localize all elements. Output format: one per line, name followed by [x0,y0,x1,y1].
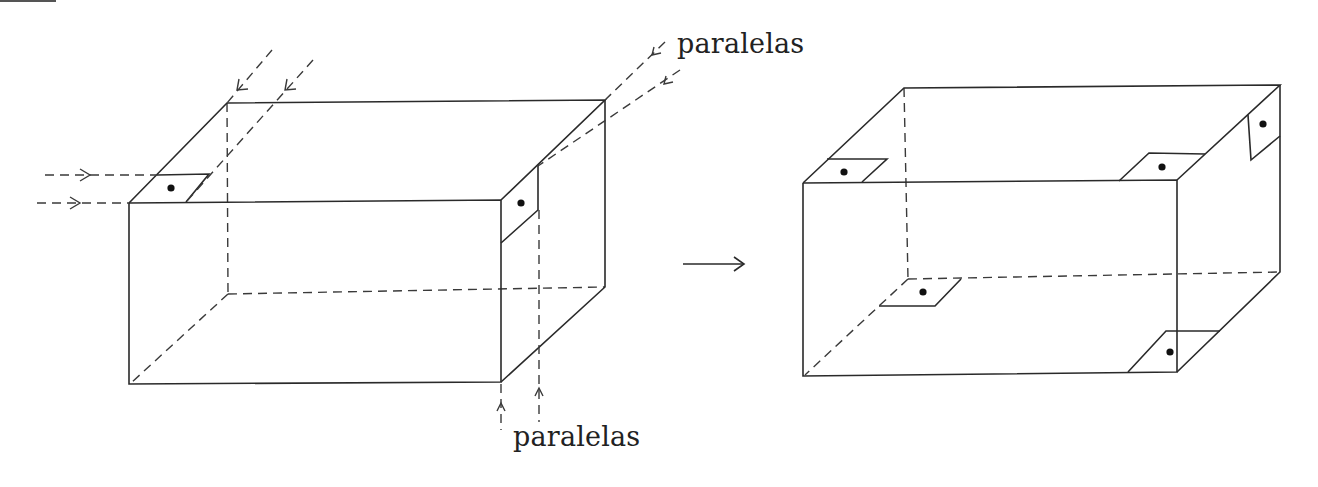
arrow-down-left-icon [664,76,673,84]
diagram-canvas [0,0,1318,487]
left-box-tab-top-left [157,174,209,202]
tab-dot [919,288,926,295]
top-right-parallel-arrows [538,42,680,166]
right-box-tab-back-right [1248,115,1280,160]
tab-dot [1158,163,1165,170]
tab-dot [1259,120,1266,127]
left-box [37,42,680,430]
left-box-tab-right [501,166,538,243]
left-box-hidden-edges [131,103,605,383]
right-box-hidden-edges [805,88,1280,375]
right-box-visible-edges [803,85,1280,376]
right-box-tab-floor-front [1128,331,1220,372]
label-paralelas-top: paralelas [677,30,804,57]
right-box [803,85,1280,376]
tab-dot [167,184,174,191]
bottom-parallel-arrows [497,210,543,430]
tab-dot [1166,348,1173,355]
transform-arrow [683,257,744,271]
tab-dot [517,199,524,206]
right-box-tab-floor-back [879,279,961,306]
right-box-tab-top-left [827,159,887,182]
label-paralelas-bottom: paralelas [513,423,640,450]
left-box-visible-edges [129,100,605,384]
tab-dot [840,168,847,175]
